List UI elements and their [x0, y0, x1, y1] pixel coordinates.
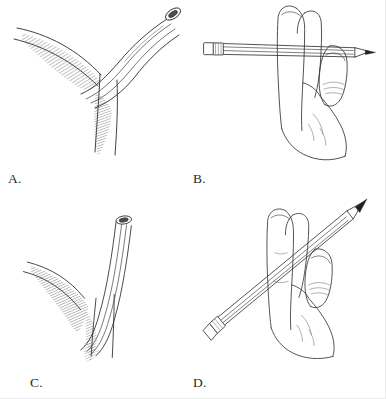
panel-a-label: A.	[8, 172, 22, 186]
tube-lumen-opening	[115, 215, 132, 225]
middle-finger	[297, 11, 321, 97]
thumb	[319, 46, 347, 107]
panel-d: D.	[193, 199, 386, 398]
figure-plate: A.	[0, 0, 386, 399]
panel-d-label: D.	[193, 376, 207, 390]
pencil-diagonal	[203, 199, 367, 340]
pencil-horizontal	[204, 43, 376, 57]
panel-b: B.	[193, 0, 386, 199]
panel-c: C.	[0, 199, 193, 398]
panel-c-illustration	[0, 199, 193, 369]
panel-b-label: B.	[193, 172, 206, 186]
palm-outline	[282, 83, 347, 160]
index-finger	[277, 6, 304, 131]
vessel-shading	[22, 33, 112, 156]
panel-a: A.	[0, 0, 193, 199]
panel-c-label: C.	[30, 376, 43, 390]
panel-d-illustration	[193, 199, 386, 369]
index-finger	[267, 209, 294, 330]
panel-b-illustration	[193, 0, 386, 170]
panel-a-illustration	[0, 0, 193, 170]
tube-highlights	[125, 26, 163, 61]
palm-outline	[271, 285, 334, 359]
